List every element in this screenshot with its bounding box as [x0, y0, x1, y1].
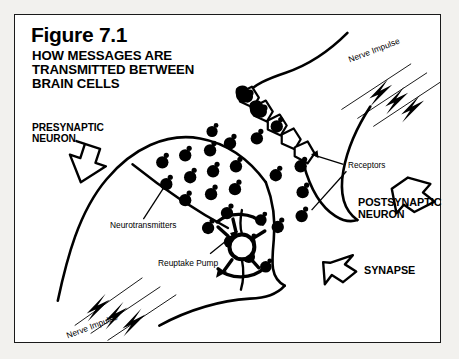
label-postsynaptic-neuron: POSTSYNAPTIC NEURON [358, 196, 441, 220]
neurotransmitter [204, 141, 217, 157]
presynaptic-arrow [63, 140, 111, 188]
neurotransmitter [207, 162, 220, 178]
label-synapse: SYNAPSE [364, 264, 415, 276]
neurotransmitter [202, 218, 215, 234]
pump-prong [224, 260, 232, 271]
neurotransmitter [224, 134, 237, 150]
neurotransmitter [206, 123, 218, 137]
label-reuptake-pump: Reuptake Pump [158, 258, 218, 268]
neurotransmitter [156, 153, 169, 169]
neurotransmitter [229, 180, 242, 196]
figure-frame: Figure 7.1 HOW MESSAGES ARE TRANSMITTED … [14, 14, 441, 343]
reuptake-pump [216, 210, 266, 290]
neurotransmitter [230, 157, 243, 173]
lightning-bolt [369, 79, 424, 123]
label-presynaptic-neuron: PRESYNAPTIC NEURON [32, 122, 104, 145]
label-neurotransmitters: Neurotransmitters [110, 220, 177, 230]
neurotransmitter [179, 191, 192, 207]
neurotransmitter [270, 166, 283, 182]
neurotransmitter [296, 183, 309, 199]
neurotransmitter [205, 185, 218, 201]
figure-number: Figure 7.1 [31, 23, 127, 47]
neurotransmitter [251, 129, 264, 145]
nerve-impulse-bolts-top [341, 64, 440, 127]
pump-prong [233, 219, 236, 232]
synapse-arrow [321, 252, 358, 287]
neurotransmitter [295, 206, 308, 222]
page-title: HOW MESSAGES ARE TRANSMITTED BETWEEN BRA… [32, 49, 194, 92]
neurotransmitter [179, 146, 192, 162]
neurotransmitter [184, 168, 197, 184]
label-receptors: Receptors [348, 161, 385, 170]
